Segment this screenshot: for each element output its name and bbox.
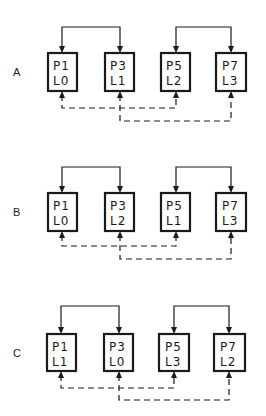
node-l: L1 — [166, 214, 182, 228]
node-p: P3 — [110, 59, 127, 73]
solid-link-p1-p3 — [61, 306, 119, 332]
node-p: P7 — [220, 340, 237, 354]
dashed-link-p3-p7 — [120, 95, 231, 121]
panel-label: A — [13, 66, 21, 78]
node-p: P1 — [53, 199, 70, 213]
panel-label: B — [13, 206, 20, 218]
node-l: L2 — [166, 74, 182, 88]
solid-link-p5-p7 — [176, 27, 231, 51]
node-p: P3 — [109, 340, 126, 354]
node-p: P7 — [222, 199, 239, 213]
node-p: P7 — [222, 59, 239, 73]
solid-link-p1-p3 — [62, 167, 120, 191]
panel-b: B P1 L0 P3 L2 P5 L1 P7 L3 — [13, 167, 246, 259]
node-p: P5 — [165, 340, 182, 354]
node-l: L0 — [53, 74, 69, 88]
solid-link-p5-p7 — [176, 167, 231, 191]
node-l: L1 — [110, 74, 126, 88]
panel-a: A P1 L0 P3 L1 P5 L2 P7 L3 — [13, 27, 246, 121]
node-l: L2 — [220, 355, 236, 369]
node-l: L0 — [53, 214, 69, 228]
node-l: L0 — [109, 355, 125, 369]
node-l: L2 — [110, 214, 126, 228]
processor-diagram: A P1 L0 P3 L1 P5 L2 P7 L3 B — [0, 0, 266, 416]
solid-link-p1-p3 — [62, 27, 120, 51]
node-p: P5 — [166, 59, 183, 73]
node-l: L3 — [222, 214, 238, 228]
node-l: L3 — [222, 74, 238, 88]
panel-label: C — [13, 347, 21, 359]
solid-link-p5-p7 — [174, 306, 229, 332]
panel-c: C P1 L1 P3 L0 P5 L3 P7 L2 — [13, 306, 245, 400]
node-l: L3 — [165, 355, 181, 369]
node-p: P1 — [52, 340, 69, 354]
node-l: L1 — [52, 355, 68, 369]
node-p: P3 — [110, 199, 127, 213]
node-p: P5 — [166, 199, 183, 213]
node-p: P1 — [53, 59, 70, 73]
